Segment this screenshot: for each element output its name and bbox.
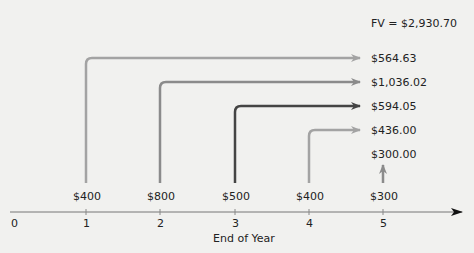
deposit-year-5: $300 xyxy=(370,190,398,203)
deposit-year-1: $400 xyxy=(73,190,101,203)
deposit-year-3: $500 xyxy=(222,190,250,203)
tick-label-3: 3 xyxy=(232,217,239,230)
arrow-year-1 xyxy=(86,58,360,183)
arrow-year-2 xyxy=(160,82,360,183)
fv-label-year-5: $300.00 xyxy=(371,148,417,161)
tick-label-0: 0 xyxy=(11,217,18,230)
deposit-year-4: $400 xyxy=(296,190,324,203)
arrow-year-3 xyxy=(235,106,360,183)
arrow-year-4 xyxy=(309,130,360,183)
fv-label-year-1: $564.63 xyxy=(371,52,417,65)
tick-label-4: 4 xyxy=(306,217,313,230)
tick-label-5: 5 xyxy=(380,217,387,230)
fv-label-year-3: $594.05 xyxy=(371,100,417,113)
deposit-year-2: $800 xyxy=(147,190,175,203)
tick-label-2: 2 xyxy=(157,217,164,230)
tick-label-1: 1 xyxy=(83,217,90,230)
future-value-total: FV = $2,930.70 xyxy=(371,17,457,30)
fv-label-year-2: $1,036.02 xyxy=(371,76,427,89)
fv-label-year-4: $436.00 xyxy=(371,124,417,137)
axis-label: End of Year xyxy=(213,232,275,245)
